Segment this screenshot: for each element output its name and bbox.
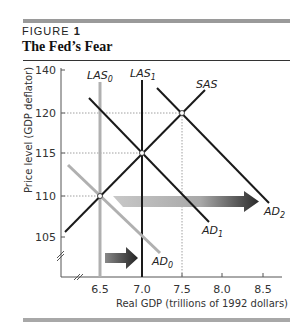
guide-lines <box>61 113 182 277</box>
svg-text:8.5: 8.5 <box>254 283 272 296</box>
bottom-rule-bar <box>23 318 290 322</box>
svg-text:105: 105 <box>35 231 56 244</box>
large-shift-arrow-icon <box>113 191 259 212</box>
ad0-curve <box>68 165 160 253</box>
svg-text:115: 115 <box>35 147 56 160</box>
svg-text:7.0: 7.0 <box>133 283 151 296</box>
svg-text:120: 120 <box>35 107 56 120</box>
las1-label: LAS1 <box>130 67 156 82</box>
ad1-label: AD1 <box>201 224 223 239</box>
sas-label: SAS <box>196 78 218 91</box>
las0-label: LAS0 <box>87 69 113 84</box>
svg-text:140: 140 <box>35 64 56 77</box>
ad0-label: AD0 <box>151 255 173 270</box>
svg-text:110: 110 <box>35 190 56 203</box>
svg-text:6.5: 6.5 <box>91 283 109 296</box>
y-axis-title: Price level (GDP deflator) <box>23 67 34 193</box>
chart: 140 120 115 110 105 6.5 7.0 7.5 8.0 8.5 … <box>0 0 304 330</box>
svg-text:7.5: 7.5 <box>173 283 191 296</box>
ad2-label: AD2 <box>263 205 285 220</box>
small-shift-arrow-icon <box>105 247 138 269</box>
x-tick-labels: 6.5 7.0 7.5 8.0 8.5 <box>91 283 272 296</box>
x-axis-title: Real GDP (trillions of 1992 dollars) <box>116 298 288 309</box>
y-tick-labels: 140 120 115 110 105 <box>35 64 56 244</box>
svg-text:8.0: 8.0 <box>213 283 231 296</box>
